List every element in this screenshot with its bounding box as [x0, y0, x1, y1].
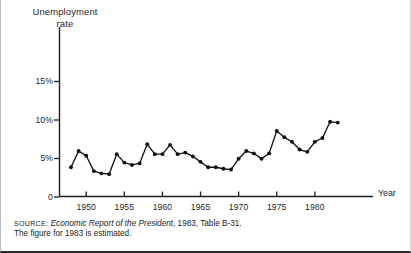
x-axis-title: Year: [378, 188, 396, 198]
data-point-1968: [221, 167, 225, 171]
x-tick-label-1950: 1950: [76, 202, 96, 212]
data-point-1959: [153, 152, 157, 156]
data-point-1948: [69, 165, 73, 169]
data-point-1958: [145, 142, 149, 146]
data-point-1967: [214, 165, 218, 169]
x-tick-label-1955: 1955: [115, 202, 135, 212]
source-label: SOURCE:: [14, 220, 48, 227]
y-tick-label-10pct: 10%: [15, 115, 53, 125]
data-point-1969: [229, 168, 233, 172]
data-point-1976: [282, 135, 286, 139]
figure-unemployment-rate: Unemployment rate 05%10%15%1950195519601…: [0, 0, 411, 253]
data-point-1964: [191, 155, 195, 159]
data-point-1974: [267, 151, 271, 155]
data-point-1949: [77, 149, 81, 153]
data-point-1965: [199, 160, 203, 164]
data-point-1971: [244, 149, 248, 153]
chart-axes: [60, 27, 374, 197]
chart-plot-area: [1, 0, 411, 253]
x-axis-tick-marks: [86, 192, 315, 197]
x-tick-label-1975: 1975: [267, 202, 287, 212]
data-point-1954: [115, 152, 119, 156]
data-point-1977: [290, 140, 294, 144]
data-point-1966: [206, 165, 210, 169]
data-point-1973: [260, 157, 264, 161]
data-point-1963: [183, 151, 187, 155]
y-tick-label-5pct: 5%: [15, 153, 53, 163]
data-point-1981: [321, 136, 325, 140]
unemployment-line: [71, 122, 338, 174]
data-point-1962: [176, 152, 180, 156]
data-point-1952: [100, 171, 104, 175]
source-note: SOURCE: Economic Report of the President…: [14, 219, 400, 239]
data-point-1972: [252, 151, 256, 155]
data-point-1970: [237, 157, 241, 161]
data-point-1975: [275, 129, 279, 133]
data-point-1956: [130, 163, 134, 167]
y-tick-label-0: 0: [15, 192, 53, 202]
source-reference-title: Economic Report of the President: [51, 219, 173, 228]
data-point-1955: [122, 161, 126, 165]
data-point-1982: [328, 120, 332, 124]
data-point-1951: [92, 169, 96, 173]
data-point-1950: [84, 154, 88, 158]
data-point-1978: [298, 148, 302, 152]
data-point-1979: [305, 150, 309, 154]
source-reference-detail: , 1983, Table B-31.: [173, 219, 242, 228]
data-point-1983: [336, 121, 340, 125]
data-point-1980: [313, 140, 317, 144]
source-estimate-note: The figure for 1983 is estimated.: [14, 229, 400, 239]
data-point-1961: [168, 143, 172, 147]
x-tick-label-1970: 1970: [229, 202, 249, 212]
data-point-1953: [107, 172, 111, 176]
data-point-1960: [160, 152, 164, 156]
y-tick-label-15pct: 15%: [15, 76, 53, 86]
data-point-1957: [138, 161, 142, 165]
source-line-1: SOURCE: Economic Report of the President…: [14, 219, 400, 229]
y-axis-tick-marks: [54, 82, 60, 198]
unemployment-data-points: [69, 120, 340, 176]
x-tick-label-1965: 1965: [191, 202, 211, 212]
x-tick-label-1960: 1960: [153, 202, 173, 212]
x-tick-label-1980: 1980: [305, 202, 325, 212]
